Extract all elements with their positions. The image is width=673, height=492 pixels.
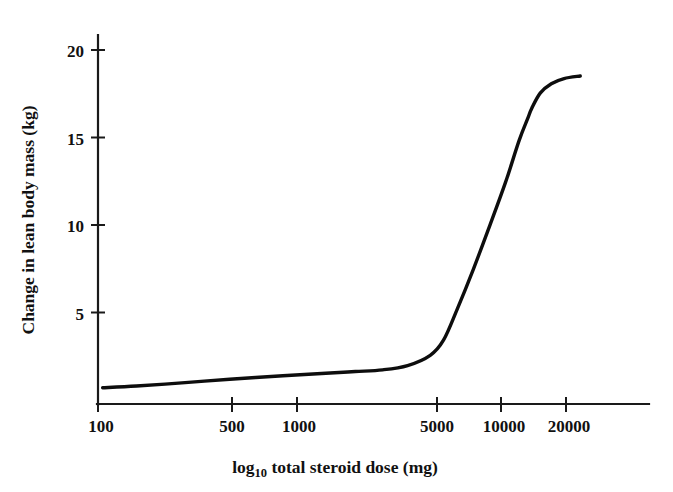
data-series-line — [103, 76, 581, 388]
svg-text:log10 total steroid dose (mg): log10 total steroid dose (mg) — [232, 457, 438, 480]
y-tick-labels: 20 15 10 5 — [67, 42, 84, 324]
y-tick-label: 10 — [67, 217, 84, 236]
y-axis-label-text: Change in lean body mass (kg) — [18, 105, 38, 334]
x-axis-label-subscript: 10 — [255, 466, 268, 480]
chart-figure: 20 15 10 5 100 500 1000 5000 10000 20000 — [0, 0, 673, 492]
y-axis-label: Change in lean body mass (kg) — [18, 105, 38, 334]
y-tick-label: 5 — [76, 305, 85, 324]
y-tick-label: 20 — [67, 42, 84, 61]
x-tick-label: 500 — [219, 417, 245, 436]
chart-canvas: 20 15 10 5 100 500 1000 5000 10000 20000 — [0, 0, 673, 492]
x-tick-label: 1000 — [282, 417, 316, 436]
x-tick-labels: 100 500 1000 5000 10000 20000 — [88, 417, 590, 436]
x-axis-label-pre: log — [232, 457, 255, 477]
x-tick-label: 100 — [88, 417, 114, 436]
y-tick-label: 15 — [67, 130, 84, 149]
x-tick-label: 10000 — [483, 417, 526, 436]
x-tick-label: 20000 — [548, 417, 591, 436]
x-tick-label: 5000 — [420, 417, 454, 436]
x-axis-label: log10 total steroid dose (mg) — [232, 457, 438, 480]
x-axis-label-post: total steroid dose (mg) — [267, 457, 438, 477]
